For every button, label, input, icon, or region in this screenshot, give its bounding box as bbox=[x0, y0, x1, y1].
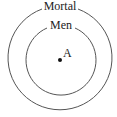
label-a: A bbox=[63, 46, 72, 60]
set-mortal: Mortal bbox=[8, 0, 112, 110]
set-men: Men bbox=[26, 18, 96, 95]
label-mortal: Mortal bbox=[44, 0, 77, 13]
point-dot bbox=[58, 58, 62, 62]
label-men: Men bbox=[50, 18, 72, 32]
point-a: A bbox=[58, 46, 72, 62]
euler-diagram: Mortal Men A bbox=[0, 0, 117, 117]
